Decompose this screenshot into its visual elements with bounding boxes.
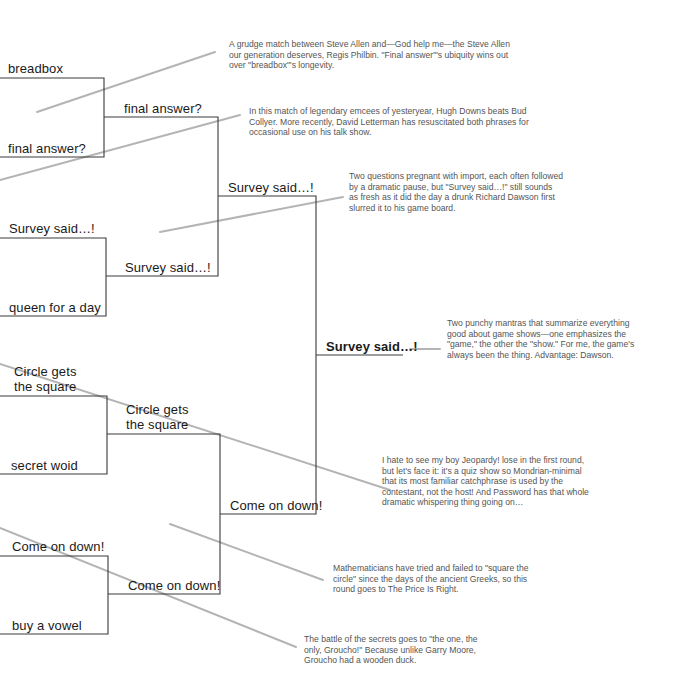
- note-line: dramatic whispering thing going on…: [382, 497, 589, 508]
- round2-entry-survey-said: Survey said…!: [125, 260, 211, 275]
- note-line: contestant, not the host! And Password h…: [382, 487, 589, 498]
- note-line: our generation deserves, Regis Philbin. …: [229, 50, 510, 61]
- note-final-answer-vs-survey: Two questions pregnant with import, each…: [349, 171, 563, 213]
- round1-entry-survey-said: Survey said…!: [9, 221, 95, 236]
- round2-entry-final-answer: final answer?: [124, 101, 202, 116]
- note-line: round goes to The Price Is Right.: [333, 584, 529, 595]
- note-line: that its most familiar catchphrase is us…: [382, 476, 589, 487]
- round2-entry-come-on-down: Come on down!: [128, 578, 220, 593]
- note-line: only, Groucho!" Because unlike Garry Moo…: [304, 645, 478, 656]
- note-line: I hate to see my boy Jeopardy! lose in t…: [382, 455, 589, 466]
- note-line: but let's face it: it's a quiz show so M…: [382, 466, 589, 477]
- note-line: Groucho had a wooden duck.: [304, 655, 478, 666]
- round3-entry-survey-said: Survey said…!: [228, 180, 314, 195]
- note-line: by a dramatic pause, but "Survey said…!"…: [349, 182, 563, 193]
- note-line: Collyer. More recently, David Letterman …: [249, 117, 529, 128]
- round1-entry-buy-a-vowel: buy a vowel: [12, 618, 82, 633]
- note-championship: Two punchy mantras that summarize everyt…: [447, 318, 634, 360]
- semifinal-2-bracket: [107, 434, 220, 594]
- round1-entry-come-on-down: Come on down!: [12, 539, 104, 554]
- note-line: A grudge match between Steve Allen and—G…: [229, 39, 510, 50]
- round1-entry-circle-gets-the-square: Circle gets the square: [14, 364, 94, 394]
- note-line: over "breadbox"'s longevity.: [229, 60, 510, 71]
- note-breadbox-vs-final-answer: A grudge match between Steve Allen and—G…: [229, 39, 510, 71]
- note-survey-vs-queen: In this match of legendary emcees of yes…: [249, 106, 529, 138]
- round3-entry-come-on-down: Come on down!: [230, 498, 322, 513]
- semifinal-1-bracket: [104, 117, 218, 276]
- note-come-on-down-vs-vowel: The battle of the secrets goes to "the o…: [304, 634, 478, 666]
- note-line: The battle of the secrets goes to "the o…: [304, 634, 478, 645]
- round2-entry-circle-gets-the-square: Circle gets the square: [126, 402, 206, 432]
- round1-entry-final-answer: final answer?: [8, 141, 86, 156]
- note-line: In this match of legendary emcees of yes…: [249, 106, 529, 117]
- note-line: Two punchy mantras that summarize everyt…: [447, 318, 634, 329]
- note-line: always been the thing. Advantage: Dawson…: [447, 350, 634, 361]
- winner-entry-survey-said: Survey said…!: [326, 339, 418, 354]
- connector-line-6: [170, 524, 323, 580]
- note-line: Mathematicians have tried and failed to …: [333, 563, 529, 574]
- note-line: "game," the other the "show." For me, th…: [447, 339, 634, 350]
- final-bracket: [218, 196, 316, 514]
- note-circle-vs-secret: I hate to see my boy Jeopardy! lose in t…: [382, 455, 589, 508]
- note-line: good about game shows—one emphasizes the: [447, 329, 634, 340]
- round1-entry-secret-woid: secret woid: [11, 458, 78, 473]
- round1-entry-breadbox: breadbox: [8, 61, 63, 76]
- note-line: circle" since the days of the ancient Gr…: [333, 574, 529, 585]
- round1-entry-queen-for-a-day: queen for a day: [9, 300, 101, 315]
- note-line: slurred it to his game board.: [349, 203, 563, 214]
- note-line: as fresh as it did the day a drunk Richa…: [349, 192, 563, 203]
- note-line: Two questions pregnant with import, each…: [349, 171, 563, 182]
- note-line: occasional use on his talk show.: [249, 127, 529, 138]
- note-circle-vs-come-on-down: Mathematicians have tried and failed to …: [333, 563, 529, 595]
